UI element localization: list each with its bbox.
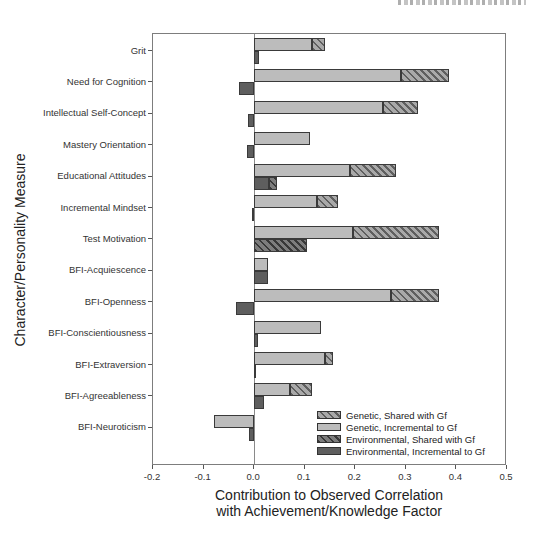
y-axis-label: BFI-Conscientiousness bbox=[6, 327, 146, 338]
x-tick-label: 0.4 bbox=[435, 471, 475, 482]
x-axis-title-line1: Contribution to Observed Correlation bbox=[132, 487, 526, 503]
cropped-header-text bbox=[398, 0, 526, 5]
bar-segment-environmental-solid-dark bbox=[254, 51, 259, 64]
y-axis-label: Grit bbox=[6, 45, 146, 56]
legend-swatch-hatched-dark bbox=[317, 435, 341, 443]
y-tick-mark bbox=[148, 238, 152, 239]
bar-segment-genetic-hatched-light bbox=[290, 383, 313, 396]
x-tick-mark bbox=[253, 465, 254, 469]
y-tick-mark bbox=[148, 176, 152, 177]
y-tick-mark bbox=[148, 50, 152, 51]
legend-label: Genetic, Shared with Gf bbox=[346, 410, 447, 421]
x-tick-label: 0.0 bbox=[233, 471, 273, 482]
bar-segment-genetic-solid-light bbox=[214, 415, 254, 428]
figure: Character/Personality Measure Genetic, S… bbox=[0, 0, 534, 543]
bar-segment-genetic-hatched-light bbox=[353, 226, 439, 239]
bar-segment-genetic-solid-light bbox=[254, 69, 401, 82]
y-axis-label: Educational Attitudes bbox=[6, 170, 146, 181]
x-tick-mark bbox=[203, 465, 204, 469]
legend-item: Genetic, Incremental to Gf bbox=[317, 421, 485, 433]
x-tick-mark bbox=[506, 465, 507, 469]
y-axis-label: BFI-Agreeableness bbox=[6, 390, 146, 401]
bar-segment-genetic-hatched-light bbox=[325, 352, 333, 365]
y-axis-label: BFI-Openness bbox=[6, 296, 146, 307]
x-tick-mark bbox=[152, 465, 153, 469]
bar-segment-genetic-hatched-light bbox=[383, 101, 418, 114]
bar-segment-genetic-hatched-light bbox=[401, 69, 449, 82]
bar-segment-environmental-solid-dark bbox=[254, 271, 268, 284]
x-axis-title-line2: with Achievement/Knowledge Factor bbox=[132, 503, 526, 519]
legend-swatch-hatched-light bbox=[317, 411, 341, 419]
bar-segment-genetic-solid-light bbox=[254, 352, 325, 365]
legend-item: Genetic, Shared with Gf bbox=[317, 409, 485, 421]
legend-label: Environmental, Shared with Gf bbox=[346, 434, 475, 445]
bar-segment-genetic-solid-light bbox=[254, 38, 312, 51]
y-axis-label: Test Motivation bbox=[6, 233, 146, 244]
bar-segment-genetic-solid-light bbox=[254, 164, 350, 177]
y-axis-label: Intellectual Self-Concept bbox=[6, 107, 146, 118]
y-tick-mark bbox=[148, 395, 152, 396]
y-axis-label: Mastery Orientation bbox=[6, 139, 146, 150]
x-tick-label: 0.3 bbox=[385, 471, 425, 482]
y-axis-label: Incremental Mindset bbox=[6, 202, 146, 213]
y-tick-mark bbox=[148, 333, 152, 334]
legend-swatch-solid-light bbox=[317, 423, 341, 431]
legend-item: Environmental, Shared with Gf bbox=[317, 433, 485, 445]
bar-segment-environmental-hatched-dark bbox=[269, 177, 277, 190]
bar-segment-environmental-solid-dark bbox=[247, 145, 255, 158]
x-tick-label: -0.1 bbox=[183, 471, 223, 482]
x-tick-mark bbox=[455, 465, 456, 469]
x-tick-mark bbox=[354, 465, 355, 469]
x-tick-label: 0.2 bbox=[334, 471, 374, 482]
bar-segment-environmental-solid-dark bbox=[248, 114, 254, 127]
x-tick-label: -0.2 bbox=[132, 471, 172, 482]
y-axis-label: BFI-Acquiescence bbox=[6, 264, 146, 275]
y-tick-mark bbox=[148, 364, 152, 365]
legend: Genetic, Shared with GfGenetic, Incremen… bbox=[317, 409, 485, 457]
y-tick-mark bbox=[148, 207, 152, 208]
legend-label: Environmental, Incremental to Gf bbox=[346, 446, 485, 457]
bar-segment-genetic-hatched-light bbox=[312, 38, 325, 51]
bar-segment-environmental-solid-dark bbox=[254, 334, 258, 347]
y-tick-mark bbox=[148, 81, 152, 82]
x-tick-mark bbox=[304, 465, 305, 469]
legend-label: Genetic, Incremental to Gf bbox=[346, 422, 457, 433]
bar-segment-genetic-hatched-light bbox=[391, 289, 439, 302]
bar-segment-genetic-hatched-light bbox=[317, 195, 337, 208]
y-tick-mark bbox=[148, 144, 152, 145]
x-tick-mark bbox=[405, 465, 406, 469]
legend-item: Environmental, Incremental to Gf bbox=[317, 445, 485, 457]
bar-segment-genetic-solid-light bbox=[254, 289, 391, 302]
y-tick-mark bbox=[148, 301, 152, 302]
bar-segment-environmental-hatched-dark bbox=[254, 239, 307, 252]
y-axis-label: BFI-Neuroticism bbox=[6, 421, 146, 432]
bar-segment-environmental-solid-dark bbox=[254, 177, 269, 190]
y-tick-mark bbox=[148, 270, 152, 271]
y-axis-label: BFI-Extraversion bbox=[6, 359, 146, 370]
y-axis-label: Need for Cognition bbox=[6, 76, 146, 87]
bar-segment-genetic-solid-light bbox=[254, 101, 383, 114]
legend-swatch-solid-dark bbox=[317, 447, 341, 455]
bar-segment-environmental-solid-dark bbox=[252, 208, 255, 221]
y-tick-mark bbox=[148, 427, 152, 428]
bar-segment-genetic-solid-light bbox=[254, 132, 310, 145]
bar-segment-genetic-solid-light bbox=[254, 321, 321, 334]
bar-segment-environmental-solid-dark bbox=[254, 396, 264, 409]
bar-segment-environmental-solid-dark bbox=[236, 302, 254, 315]
x-tick-label: 0.1 bbox=[284, 471, 324, 482]
bar-segment-environmental-solid-dark bbox=[254, 365, 256, 378]
bar-segment-genetic-solid-light bbox=[254, 383, 289, 396]
y-tick-mark bbox=[148, 113, 152, 114]
x-tick-label: 0.5 bbox=[486, 471, 526, 482]
bar-segment-environmental-solid-dark bbox=[239, 82, 254, 95]
plot-area: Genetic, Shared with GfGenetic, Incremen… bbox=[152, 33, 506, 465]
bar-segment-genetic-solid-light bbox=[254, 195, 317, 208]
bar-segment-environmental-solid-dark bbox=[249, 428, 254, 441]
bar-segment-genetic-hatched-light bbox=[350, 164, 396, 177]
bar-segment-genetic-solid-light bbox=[254, 226, 353, 239]
bar-segment-genetic-solid-light bbox=[254, 258, 268, 271]
x-axis-title: Contribution to Observed Correlation wit… bbox=[132, 487, 526, 519]
